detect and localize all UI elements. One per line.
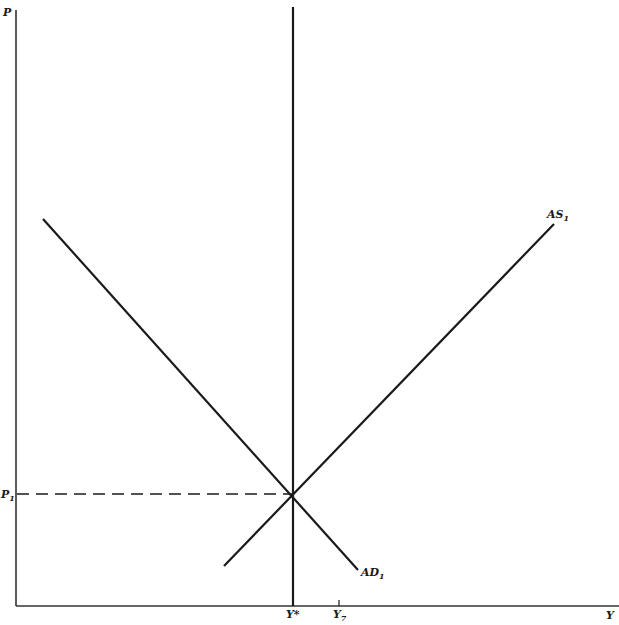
- y-axis-label: P: [2, 6, 12, 19]
- x-axis-label: Y: [606, 609, 615, 622]
- y-star-label: Y*: [286, 608, 300, 621]
- y7-label: Y7: [333, 608, 347, 623]
- p1-label: P1: [0, 488, 15, 503]
- as1-label: AS1: [546, 208, 569, 223]
- ad1-label: AD1: [360, 566, 385, 581]
- as1-curve: [224, 224, 554, 566]
- ad1-curve: [43, 219, 358, 570]
- ad-as-diagram: P Y P1 Y* Y7 AD1 AS1: [0, 0, 619, 625]
